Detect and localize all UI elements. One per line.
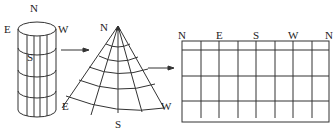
- cylinder-label-west: W: [58, 24, 68, 35]
- arrow-fan-to-grid: [148, 66, 174, 70]
- grid-label-east: E: [216, 30, 223, 41]
- cylinder-label-north: N: [30, 3, 38, 14]
- fan-label-west: W: [161, 101, 171, 112]
- grid-label-north-left: N: [178, 30, 186, 41]
- arrow-cylinder-to-fan: [61, 48, 89, 52]
- map-projection-diagram: [0, 0, 335, 134]
- cylinder-label-south: S: [27, 52, 33, 63]
- fan-label-north: N: [100, 22, 108, 33]
- grid-label-west: W: [288, 30, 298, 41]
- grid-label-south: S: [253, 30, 259, 41]
- grid-label-north-right: N: [325, 30, 333, 41]
- flat-grid-figure: [182, 41, 329, 122]
- cylinder-label-east: E: [4, 24, 11, 35]
- cone-fan-figure: [62, 26, 164, 115]
- fan-label-south: S: [115, 119, 121, 130]
- cylinder-figure: [18, 22, 56, 117]
- fan-label-east: E: [62, 101, 69, 112]
